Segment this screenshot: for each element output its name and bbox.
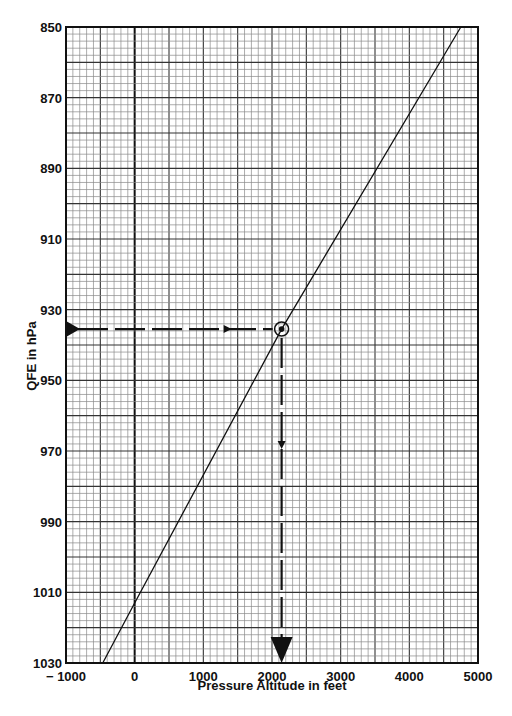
qfe-pressure-altitude-chart: 85087089091093095097099010101030 − 10000… <box>0 0 512 716</box>
y-tick-label: 950 <box>40 373 62 388</box>
y-tick-label: 990 <box>40 515 62 530</box>
x-tick-label: − 1000 <box>46 669 86 684</box>
y-tick-label: 970 <box>40 444 62 459</box>
y-tick-label: 930 <box>40 303 62 318</box>
y-tick-label: 910 <box>40 232 62 247</box>
y-axis-title: QFE in hPa <box>24 321 39 391</box>
x-tick-label: 5000 <box>464 669 493 684</box>
intersection-dot-icon <box>279 326 285 332</box>
y-tick-label: 850 <box>40 20 62 35</box>
y-tick-label: 890 <box>40 161 62 176</box>
x-tick-label: 4000 <box>395 669 424 684</box>
result-arrowhead-icon <box>271 637 293 663</box>
y-tick-label: 1010 <box>33 585 62 600</box>
chart-grid <box>66 27 478 663</box>
x-axis-title: Pressure Altitude in feet <box>197 678 347 693</box>
y-tick-label: 870 <box>40 91 62 106</box>
small-arrowhead-right-icon <box>224 325 232 333</box>
x-tick-label: 0 <box>131 669 138 684</box>
